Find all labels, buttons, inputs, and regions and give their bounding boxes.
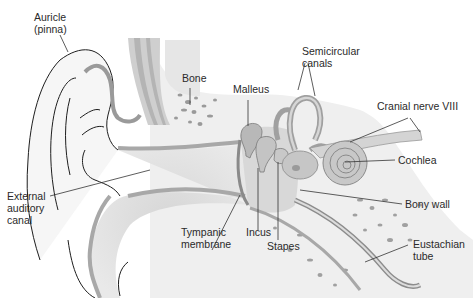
label-external-auditory-canal: External auditory canal — [7, 190, 46, 226]
label-bony-wall: Bony wall — [405, 198, 450, 210]
label-eustachian-tube: Eustachian tube — [413, 238, 465, 262]
label-incus: Incus — [246, 226, 271, 238]
label-semicircular-canals: Semicircular canals — [302, 45, 360, 69]
ear-illustration — [0, 0, 473, 298]
label-cochlea: Cochlea — [398, 154, 437, 166]
label-cranial-nerve-viii: Cranial nerve VIII — [377, 100, 458, 112]
cochlea — [323, 141, 367, 185]
label-bone: Bone — [182, 72, 207, 84]
label-stapes: Stapes — [267, 240, 300, 252]
label-tympanic-membrane: Tympanic membrane — [181, 226, 231, 250]
label-auricle: Auricle (pinna) — [34, 11, 67, 35]
auricle — [27, 50, 140, 298]
label-malleus: Malleus — [233, 83, 269, 95]
ear-anatomy-diagram: Auricle (pinna) Bone Malleus Semicircula… — [0, 0, 473, 298]
